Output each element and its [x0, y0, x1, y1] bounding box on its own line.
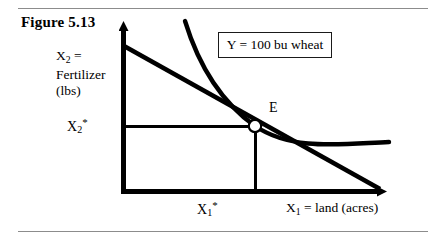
bottom-divider-rule	[18, 231, 428, 232]
y-axis-variable-base: X	[56, 48, 66, 63]
y-axis-caption: X2 = Fertilizer (lbs)	[56, 48, 105, 98]
x2-star-superscript: *	[82, 116, 87, 128]
output-legend-box: Y = 100 bu wheat	[218, 32, 332, 58]
y-axis-caption-line-2: Fertilizer	[56, 67, 105, 83]
figure-container: Figure 5.13 X2 = Fertilizer (lbs) X2*	[0, 0, 446, 242]
x1-star-tick-label: X1*	[197, 199, 218, 218]
isocost-line	[124, 46, 380, 189]
x-axis-caption-rest: = land (acres)	[301, 200, 379, 215]
equilibrium-point-marker	[249, 120, 261, 132]
y-axis-variable-subscript: 2	[66, 54, 71, 65]
y-axis-caption-line-3: (lbs)	[56, 83, 105, 99]
x-axis-caption: X1 = land (acres)	[286, 200, 378, 217]
y-axis-caption-line-1: X2 =	[56, 48, 105, 67]
equilibrium-point-label: E	[269, 100, 278, 116]
x1-star-superscript: *	[212, 199, 217, 211]
x2-star-tick-label: X2*	[67, 116, 88, 135]
x1-star-base: X	[197, 202, 207, 217]
output-legend-label: Y = 100 bu wheat	[227, 37, 323, 53]
x-axis-variable-base: X	[286, 200, 296, 215]
x2-star-base: X	[67, 119, 77, 134]
